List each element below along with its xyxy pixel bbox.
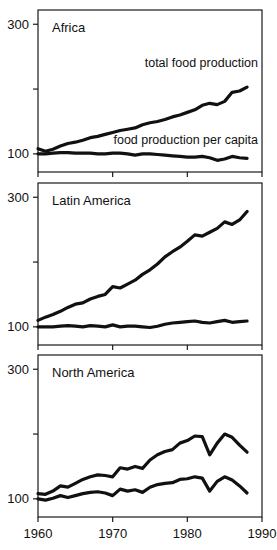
series-line-total-food-production xyxy=(38,434,247,494)
food-production-figure: 100300Africatotal food productionfood pr… xyxy=(0,0,277,550)
panel-title: Africa xyxy=(52,20,86,35)
y-tick-label-300: 300 xyxy=(7,17,29,32)
y-tick-label-300: 300 xyxy=(7,362,29,377)
y-tick-label-100: 100 xyxy=(7,491,29,506)
series-annotation-food-production-per-capita: food production per capita xyxy=(113,133,258,147)
series-line-total-food-production xyxy=(38,87,247,151)
panel-title: Latin America xyxy=(52,193,132,208)
series-line-food-production-per-capita xyxy=(38,477,247,500)
x-tick-label-1970: 1970 xyxy=(98,526,127,541)
series-line-food-production-per-capita xyxy=(38,153,247,161)
series-line-total-food-production xyxy=(38,212,247,321)
y-tick-label-100: 100 xyxy=(7,319,29,334)
x-tick-label-1980: 1980 xyxy=(173,526,202,541)
plot-frame xyxy=(38,183,262,345)
y-tick-label-100: 100 xyxy=(7,146,29,161)
x-tick-label-1960: 1960 xyxy=(24,526,53,541)
y-tick-label-300: 300 xyxy=(7,190,29,205)
panel-title: North America xyxy=(52,365,135,380)
plot-frame xyxy=(38,355,262,517)
x-tick-label-1990: 1990 xyxy=(248,526,277,541)
plot-frame xyxy=(38,10,262,172)
series-annotation-total-food-production: total food production xyxy=(145,56,258,70)
series-line-food-production-per-capita xyxy=(38,320,247,327)
